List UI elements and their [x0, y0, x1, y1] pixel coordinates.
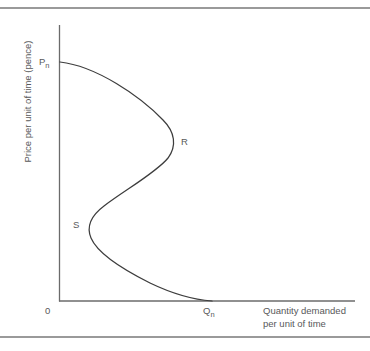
y-axis-title: Price per unit of time (pence) — [22, 26, 33, 178]
demand-curve — [60, 62, 212, 301]
x-axis-title: Quantity demandedper unit of time — [263, 305, 367, 330]
qn-subscript: n — [210, 310, 214, 319]
x-axis-title-line2: per unit of time — [263, 318, 326, 329]
point-r-label: R — [181, 136, 188, 148]
point-s-label: S — [73, 219, 79, 231]
plot-area — [0, 0, 370, 351]
pn-subscript: n — [45, 61, 49, 70]
quantity-intercept-label: Qn — [203, 305, 215, 317]
x-axis-title-line1: Quantity demanded — [263, 305, 346, 316]
origin-label: 0 — [45, 305, 50, 317]
chart-figure: Price per unit of time (pence) Pn R S 0 … — [0, 0, 370, 351]
price-intercept-label: Pn — [39, 56, 50, 68]
